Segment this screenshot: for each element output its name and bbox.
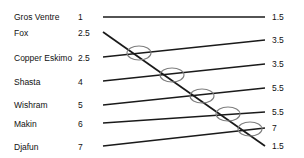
left-value-fox: 2.5 [78,29,96,38]
left-value-wishram: 5 [78,101,96,110]
right-value-row-1: 1.5 [272,13,284,22]
category-label-shasta: Shasta [14,78,40,87]
category-label-makin: Makin [14,120,37,129]
slope-chart: Gros Ventre Fox Copper Eskimo Shasta Wis… [0,0,304,158]
right-value-row-4: 5.5 [272,84,284,93]
category-label-copper-eskimo: Copper Eskimo [14,54,72,63]
left-value-djafun: 7 [78,143,96,152]
slope-chart-canvas [0,0,304,158]
category-label-gros-ventre: Gros Ventre [14,13,59,22]
category-label-djafun: Djafun [14,143,39,152]
slope-line-makin [103,112,265,123]
left-value-gros-ventre: 1 [78,13,96,22]
slope-line-wishram [103,88,265,105]
left-value-copper-eskimo: 2.5 [78,54,96,63]
right-value-row-5: 5.5 [272,108,284,117]
slope-line-djafun [103,128,265,146]
right-value-row-7: 1.5 [272,142,284,151]
category-label-fox: Fox [14,29,28,38]
right-value-row-2: 3.5 [272,36,284,45]
left-value-shasta: 4 [78,78,96,87]
left-value-makin: 6 [78,120,96,129]
slope-lines [103,17,265,146]
right-value-row-3: 3.5 [272,60,284,69]
slope-line-shasta [103,64,265,81]
category-label-wishram: Wishram [14,101,48,110]
right-value-row-6: 7 [272,124,277,133]
